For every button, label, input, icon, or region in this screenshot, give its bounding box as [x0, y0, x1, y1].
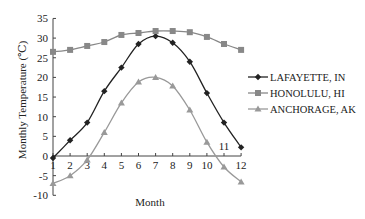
x-tick-label: 7	[153, 159, 159, 171]
x-tick-label: 4	[102, 159, 108, 171]
diamond-marker	[221, 119, 227, 125]
x-tick-label: 10	[201, 159, 213, 171]
y-tick-label: 35	[37, 12, 49, 24]
square-marker	[136, 30, 142, 36]
triangle-marker	[135, 79, 142, 85]
y-tick-label: -5	[39, 170, 49, 182]
y-tick-label: 0	[43, 150, 49, 162]
square-marker	[187, 29, 193, 35]
square-marker	[238, 47, 244, 53]
series-line	[53, 31, 241, 52]
y-tick-label: 30	[37, 32, 49, 44]
series-line	[53, 36, 241, 158]
x-tick-label: 8	[170, 159, 176, 171]
triangle-marker	[101, 129, 108, 135]
square-marker	[204, 34, 210, 40]
triangle-marker	[186, 107, 193, 113]
y-tick-label: 5	[43, 130, 49, 142]
y-tick-label: 20	[37, 71, 49, 83]
legend-square-icon	[255, 90, 261, 96]
y-tick-label: -10	[33, 189, 48, 201]
y-axis-label: Monthly Temperature (℃)	[16, 41, 29, 160]
square-marker	[67, 47, 73, 53]
line-chart: -10-505101520253035123456789101112 LAFAY…	[0, 0, 365, 219]
square-marker	[170, 28, 176, 34]
diamond-marker	[101, 88, 107, 94]
square-marker	[101, 39, 107, 45]
x-tick-label: 5	[119, 159, 125, 171]
square-marker	[84, 43, 90, 49]
legend-item: HONOLULU, HI	[248, 88, 345, 99]
x-tick-label: 11	[219, 140, 230, 152]
series-lines	[50, 28, 245, 186]
legend-label: ANCHORAGE, AK	[270, 104, 356, 115]
square-marker	[221, 41, 227, 47]
legend-label: HONOLULU, HI	[270, 88, 345, 99]
square-marker	[153, 28, 159, 34]
y-tick-label: 25	[37, 52, 49, 64]
x-tick-label: 12	[236, 159, 247, 171]
legend: LAFAYETTE, INHONOLULU, HIANCHORAGE, AK	[248, 72, 356, 115]
diamond-marker	[204, 90, 210, 96]
legend-diamond-icon	[255, 74, 261, 80]
y-tick-label: 10	[37, 111, 49, 123]
x-tick-label: 9	[187, 159, 193, 171]
x-axis-label: Month	[135, 196, 165, 208]
legend-item: LAFAYETTE, IN	[248, 72, 346, 83]
series-anchorage-ak	[50, 74, 245, 186]
series-honolulu-hi	[50, 28, 244, 55]
triangle-marker	[67, 172, 74, 178]
series-lafayette-in	[50, 33, 245, 161]
square-marker	[118, 32, 124, 38]
y-tick-label: 15	[37, 91, 49, 103]
legend-label: LAFAYETTE, IN	[270, 72, 346, 83]
triangle-marker	[203, 139, 210, 145]
x-tick-label: 6	[136, 159, 142, 171]
legend-item: ANCHORAGE, AK	[248, 104, 356, 115]
square-marker	[50, 49, 56, 55]
x-tick-label: 2	[67, 159, 73, 171]
